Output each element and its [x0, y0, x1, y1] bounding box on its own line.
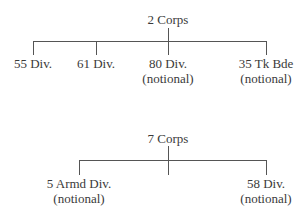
node-61-div: 61 Div. — [77, 57, 115, 71]
node-58-div-note: (notional) — [240, 192, 291, 206]
node-2-corps: 2 Corps — [148, 13, 189, 27]
connector-35-tk-bde — [266, 41, 267, 55]
node-35-tk-bde-note: (notional) — [240, 72, 291, 86]
connector-bar-7-corps — [79, 160, 267, 161]
node-55-div: 55 Div. — [14, 57, 52, 71]
node-5-armd-div-note: (notional) — [53, 192, 104, 206]
node-80-div-note: (notional) — [142, 72, 193, 86]
node-80-div: 80 Div. — [149, 57, 187, 71]
connector-55-div — [33, 41, 34, 55]
node-5-armd-div: 5 Armd Div. — [47, 177, 112, 191]
connector-61-div — [96, 41, 97, 55]
connector-bar-2-corps — [33, 41, 267, 42]
node-35-tk-bde: 35 Tk Bde — [239, 57, 294, 71]
connector-58-div — [266, 160, 267, 175]
node-58-div: 58 Div. — [247, 177, 285, 191]
node-7-corps: 7 Corps — [148, 132, 189, 146]
connector-5-armd-div — [79, 160, 80, 175]
